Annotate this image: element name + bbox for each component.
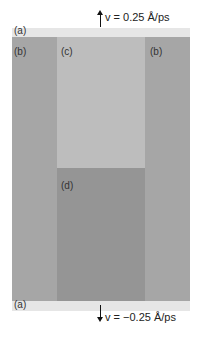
region-b-right-label: (b) (150, 46, 162, 57)
bottom-velocity-label: v = −0.25 Å/ps (105, 311, 176, 323)
top-velocity-label: v = 0.25 Å/ps (105, 11, 170, 23)
region-a-bottom-label: (a) (14, 299, 26, 310)
region-c-label: (c) (61, 46, 73, 57)
region-a-top (12, 28, 190, 37)
region-b-right (145, 37, 190, 301)
bottom-velocity-arrow-icon (97, 305, 104, 323)
region-d-label: (d) (61, 180, 73, 191)
top-velocity-arrow-icon (97, 10, 104, 28)
region-b-left-label: (b) (14, 46, 26, 57)
region-a-top-label: (a) (14, 25, 26, 36)
region-b-left (12, 37, 57, 301)
